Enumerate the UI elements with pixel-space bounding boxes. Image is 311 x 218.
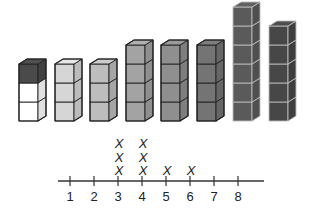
cube bbox=[233, 2, 260, 26]
x-mark: X bbox=[138, 150, 149, 165]
cube bbox=[126, 40, 153, 64]
tower-3 bbox=[90, 59, 117, 121]
tower-2 bbox=[55, 59, 82, 121]
tick-label: 1 bbox=[66, 189, 73, 204]
x-mark: X bbox=[138, 136, 149, 151]
cube bbox=[161, 40, 188, 64]
tower-6 bbox=[197, 40, 224, 121]
tower-1 bbox=[19, 59, 46, 121]
tower-7 bbox=[233, 2, 260, 121]
cube bbox=[55, 59, 82, 83]
tick-label: 7 bbox=[210, 189, 217, 204]
tower-4 bbox=[126, 40, 153, 121]
tower-8 bbox=[269, 21, 296, 121]
tick-label: 6 bbox=[186, 189, 193, 204]
tick-label: 4 bbox=[138, 189, 145, 204]
x-mark: X bbox=[114, 136, 125, 151]
tower-5 bbox=[161, 40, 188, 121]
cube bbox=[269, 21, 296, 45]
x-mark: X bbox=[114, 163, 125, 178]
diagram-canvas: 12345678 XXXXXXXX bbox=[0, 0, 311, 218]
x-mark: X bbox=[186, 163, 197, 178]
tick-label: 2 bbox=[90, 189, 97, 204]
tick-marks: 12345678 bbox=[66, 176, 241, 204]
cube bbox=[19, 59, 46, 83]
tick-label: 8 bbox=[234, 189, 241, 204]
x-mark: X bbox=[114, 150, 125, 165]
cube bbox=[197, 40, 224, 64]
x-mark: X bbox=[138, 163, 149, 178]
tick-label: 3 bbox=[114, 189, 121, 204]
cube bbox=[90, 59, 117, 83]
cube-towers bbox=[19, 2, 296, 121]
tick-label: 5 bbox=[162, 189, 169, 204]
x-mark: X bbox=[162, 163, 173, 178]
line-plot: 12345678 XXXXXXXX bbox=[58, 136, 264, 204]
x-marks: XXXXXXXX bbox=[114, 136, 197, 178]
